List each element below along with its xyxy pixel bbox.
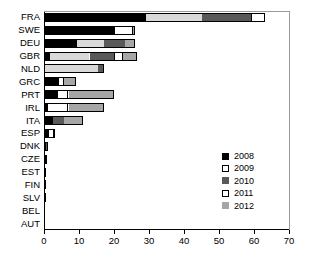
bar-segment-grc-2008 [44,77,58,86]
legend-swatch-2012 [222,202,229,209]
x-tick-10 [79,230,80,234]
legend-swatch-2009 [222,165,229,172]
horizontal-stacked-bar-chart: FRASWEDEUGBRNLDGRCPRTIRLITAESPDNKCZEESTF… [0,0,312,262]
bar-segment-ita-2008 [44,116,53,125]
bar-segment-gbr-2012 [123,52,137,61]
y-tick-label-ita: ITA [0,116,40,126]
legend-label-2012: 2012 [234,200,254,212]
y-tick-label-esp: ESP [0,128,40,138]
bar-segment-grc-2012 [64,77,76,86]
bar-segment-swe-2011 [114,26,133,35]
y-tick-label-cze: CZE [0,154,40,164]
legend-label-2009: 2009 [234,162,254,174]
x-tick-60 [254,230,255,234]
bar-segment-est-2010 [44,168,45,177]
y-tick-label-fra: FRA [0,12,40,22]
bar-segment-fra-2011 [251,13,265,22]
bar-segment-nld-2009 [44,64,98,73]
bar-segment-gbr-2010 [90,52,115,61]
plot-frame-top [44,11,290,12]
y-tick-label-fin: FIN [0,180,40,190]
x-tick-0 [44,230,45,234]
legend-item-2012: 2012 [222,200,254,212]
legend-item-2008: 2008 [222,150,254,162]
legend-item-2011: 2011 [222,187,254,199]
bar-segment-deu-2010 [104,39,125,48]
x-tick-label-50: 50 [214,235,225,246]
bar-segment-slv-2008 [44,193,45,202]
y-tick-label-bel: BEL [0,206,40,216]
bar-segment-swe-2008 [44,26,114,35]
y-tick-label-prt: PRT [0,90,40,100]
x-tick-50 [219,230,220,234]
x-tick-20 [114,230,115,234]
legend-item-2009: 2009 [222,162,254,174]
bar-segment-deu-2008 [44,39,77,48]
bar-segment-nld-2010 [98,64,103,73]
bar-segment-dnk-2010 [46,142,47,151]
y-tick-label-irl: IRL [0,103,40,113]
bar-segment-prt-2008 [44,90,57,99]
legend-swatch-2008 [222,153,229,160]
bar-segment-prt-2011 [57,90,69,99]
bar-segment-fra-2009 [146,13,202,22]
x-tick-label-30: 30 [144,235,155,246]
x-tick-label-10: 10 [74,235,85,246]
bar-segment-esp-2011 [48,129,54,138]
legend-label-2008: 2008 [234,150,254,162]
bar-segment-swe-2012 [133,26,135,35]
bar-segment-gbr-2011 [114,52,123,61]
legend-label-2011: 2011 [234,187,253,199]
x-tick-label-0: 0 [41,235,46,246]
y-tick-label-dnk: DNK [0,141,40,151]
y-tick-label-slv: SLV [0,193,40,203]
legend: 20082009201020112012 [222,150,254,212]
x-tick-label-60: 60 [249,235,260,246]
legend-item-2010: 2010 [222,175,254,187]
y-tick-label-aut: AUT [0,219,40,229]
bar-segment-deu-2012 [125,39,136,48]
y-tick-label-swe: SWE [0,25,40,35]
y-tick-label-nld: NLD [0,64,40,74]
bar-segment-deu-2009 [77,39,103,48]
bar-segment-prt-2012 [69,90,115,99]
x-tick-label-40: 40 [179,235,190,246]
x-tick-70 [289,230,290,234]
bar-segment-fra-2010 [202,13,251,22]
y-tick-label-est: EST [0,167,40,177]
plot-frame-right [289,11,290,230]
legend-label-2010: 2010 [234,175,254,187]
x-tick-label-70: 70 [284,235,295,246]
y-tick-label-grc: GRC [0,77,40,87]
x-tick-label-20: 20 [109,235,120,246]
bar-segment-fra-2008 [44,13,146,22]
bar-segment-gbr-2009 [50,52,90,61]
legend-swatch-2010 [222,177,229,184]
bar-segment-irl-2012 [69,103,104,112]
bar-segment-ita-2012 [64,116,83,125]
bar-segment-irl-2011 [47,103,68,112]
legend-swatch-2011 [222,190,229,197]
bar-segment-ita-2010 [53,116,64,125]
y-tick-label-gbr: GBR [0,51,40,61]
y-tick-label-deu: DEU [0,38,40,48]
bar-segment-fin-2010 [44,180,45,189]
x-tick-40 [184,230,185,234]
x-axis: 010203040506070 [44,230,290,254]
x-tick-30 [149,230,150,234]
bar-segment-cze-2012 [46,155,47,164]
